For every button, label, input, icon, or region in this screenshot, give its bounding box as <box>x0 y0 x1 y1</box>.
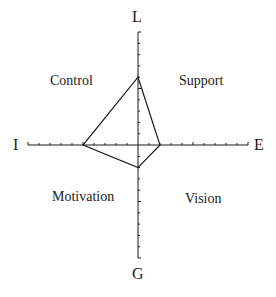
axis-label-bottom: G <box>132 265 144 283</box>
axes <box>28 32 248 258</box>
axis-label-left: I <box>13 136 18 154</box>
quadrant-label-support: Support <box>179 73 223 89</box>
quadrant-label-motivation: Motivation <box>52 189 114 205</box>
axis-label-top: L <box>132 8 142 26</box>
quadrant-label-control: Control <box>50 73 93 89</box>
axis-label-right: E <box>254 136 264 154</box>
profile-polygon <box>83 77 160 167</box>
quadrant-label-vision: Vision <box>185 191 222 207</box>
diagram-canvas <box>0 0 276 297</box>
